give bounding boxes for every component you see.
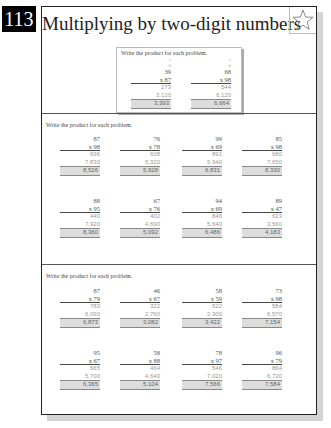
answer-box: 6,664 bbox=[191, 100, 231, 109]
multiplier: x 47 bbox=[242, 205, 282, 214]
answer-box: 5,092 bbox=[120, 229, 160, 238]
example-problem: 7 6 68 x 98 544 6,120 6,664 bbox=[191, 58, 231, 109]
partial-product: 2,760 bbox=[120, 311, 160, 320]
partial-product: 7,920 bbox=[60, 221, 100, 230]
multiplication-problem: 46x 673222,7603,082 bbox=[120, 287, 160, 328]
multiplicand: 87 bbox=[60, 287, 100, 295]
partial-product: 2,900 bbox=[182, 311, 222, 320]
partial-product: 6,120 bbox=[191, 92, 231, 101]
multiplier: x 69 bbox=[182, 143, 222, 152]
multiplication-problem: 67x 764024,6905,092 bbox=[120, 197, 160, 238]
multiplier: x 79 bbox=[242, 357, 282, 366]
partial-product: 440 bbox=[60, 213, 100, 221]
multiplier: x 78 bbox=[120, 143, 160, 152]
partial-product: 3,560 bbox=[242, 221, 282, 230]
page-title: Multiplying by two-digit numbers bbox=[42, 13, 282, 35]
answer-box: 7,566 bbox=[182, 381, 222, 390]
multiplier: x 76 bbox=[120, 205, 160, 214]
multiplicand: 78 bbox=[182, 349, 222, 357]
multiplicand: 96 bbox=[242, 349, 282, 357]
partial-product: 5,700 bbox=[60, 373, 100, 382]
answer-box: 4,183 bbox=[242, 229, 282, 238]
multiplicand: 68 bbox=[191, 68, 231, 76]
partial-product: 7,020 bbox=[182, 373, 222, 382]
multiplier: x 98 bbox=[242, 295, 282, 304]
partial-product: 6,720 bbox=[242, 373, 282, 382]
multiplicand: 46 bbox=[120, 287, 160, 295]
multiplication-problem: 73x 985846,5707,154 bbox=[242, 287, 282, 328]
answer-box: 5,928 bbox=[120, 167, 160, 176]
multiplicand: 95 bbox=[60, 349, 100, 357]
multiplicand: 99 bbox=[182, 135, 222, 143]
multiplication-problem: 87x 986967,8308,526 bbox=[60, 135, 100, 176]
multiplier: x 69 bbox=[182, 205, 222, 214]
partial-product: 546 bbox=[182, 365, 222, 373]
multiplier: x 59 bbox=[182, 295, 222, 304]
multiplier: x 79 bbox=[60, 295, 100, 304]
answer-box: 8,526 bbox=[60, 167, 100, 176]
answer-box: 6,486 bbox=[182, 229, 222, 238]
multiplication-problem: 95x 676655,7006,365 bbox=[60, 349, 100, 390]
answer-box: 5,104 bbox=[120, 381, 160, 390]
multiplicand: 76 bbox=[120, 135, 160, 143]
multiplication-problem: 88x 954407,9208,360 bbox=[60, 197, 100, 238]
section-divider bbox=[42, 113, 316, 114]
multiplicand: 85 bbox=[242, 135, 282, 143]
multiplicand: 58 bbox=[120, 349, 160, 357]
multiplier: x 98 bbox=[191, 76, 231, 85]
partial-product: 783 bbox=[60, 303, 100, 311]
multiplication-problem: 78x 975467,0207,566 bbox=[182, 349, 222, 390]
partial-product: 544 bbox=[191, 84, 231, 92]
partial-product: 4,640 bbox=[120, 373, 160, 382]
partial-product: 5,640 bbox=[182, 221, 222, 230]
multiplier: x 98 bbox=[60, 143, 100, 152]
star-badge bbox=[289, 7, 316, 34]
multiplication-problem: 96x 798646,7207,584 bbox=[242, 349, 282, 390]
star-outline-icon bbox=[291, 8, 315, 32]
multiplicand: 89 bbox=[242, 197, 282, 205]
partial-product: 846 bbox=[182, 213, 222, 221]
partial-product: 3,120 bbox=[131, 92, 171, 101]
partial-product: 322 bbox=[120, 303, 160, 311]
answer-box: 3,393 bbox=[131, 100, 171, 109]
section-divider bbox=[42, 264, 316, 265]
partial-product: 584 bbox=[242, 303, 282, 311]
partial-product: 5,320 bbox=[120, 159, 160, 168]
answer-box: 7,154 bbox=[242, 319, 282, 328]
partial-product: 680 bbox=[242, 151, 282, 159]
multiplier: x 97 bbox=[182, 357, 222, 366]
multiplier: x 95 bbox=[60, 205, 100, 214]
partial-product: 273 bbox=[131, 84, 171, 92]
partial-product: 623 bbox=[242, 213, 282, 221]
multiplication-problem: 76x 786085,3205,928 bbox=[120, 135, 160, 176]
multiplier: x 98 bbox=[242, 143, 282, 152]
partial-product: 696 bbox=[60, 151, 100, 159]
partial-product: 608 bbox=[120, 151, 160, 159]
multiplication-problem: 85x 986807,6508,330 bbox=[242, 135, 282, 176]
multiplication-problem: 89x 476233,5604,183 bbox=[242, 197, 282, 238]
answer-box: 6,831 bbox=[182, 167, 222, 176]
multiplicand: 88 bbox=[60, 197, 100, 205]
multiplicand: 58 bbox=[182, 287, 222, 295]
partial-product: 464 bbox=[120, 365, 160, 373]
multiplier: x 87 bbox=[131, 76, 171, 85]
multiplication-problem: 58x 595222,9003,422 bbox=[182, 287, 222, 328]
answer-box: 3,422 bbox=[182, 319, 222, 328]
example-problem: 7 6 39 x 87 273 3,120 3,393 bbox=[131, 58, 171, 109]
partial-product: 665 bbox=[60, 365, 100, 373]
multiplication-problem: 94x 698465,6406,486 bbox=[182, 197, 222, 238]
answer-box: 8,330 bbox=[242, 167, 282, 176]
section-2-instruction: Write the product for each problem. bbox=[46, 273, 132, 279]
answer-box: 6,873 bbox=[60, 319, 100, 328]
worksheet: Multiplying by two-digit numbers Write t… bbox=[41, 6, 317, 415]
multiplicand: 39 bbox=[131, 68, 171, 76]
section-1-instruction: Write the product for each problem. bbox=[46, 122, 132, 128]
partial-product: 522 bbox=[182, 303, 222, 311]
multiplicand: 87 bbox=[60, 135, 100, 143]
multiplicand: 94 bbox=[182, 197, 222, 205]
page-number-badge: 113 bbox=[2, 6, 36, 32]
partial-product: 7,830 bbox=[60, 159, 100, 168]
partial-product: 6,090 bbox=[60, 311, 100, 320]
answer-box: 3,082 bbox=[120, 319, 160, 328]
partial-product: 864 bbox=[242, 365, 282, 373]
